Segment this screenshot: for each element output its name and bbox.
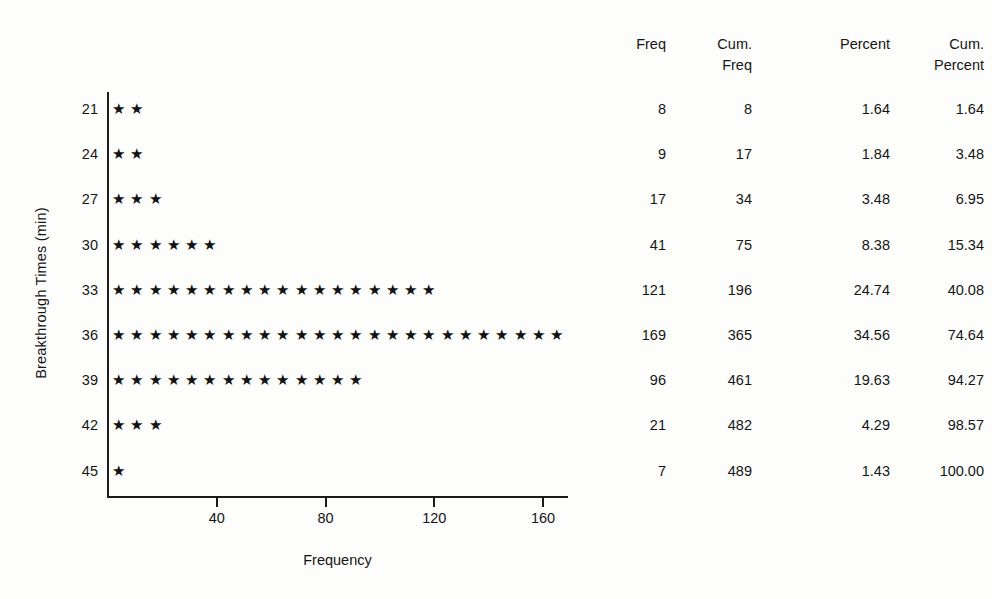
table-cell: 461 (662, 369, 752, 391)
table-cell: 98.57 (888, 414, 984, 436)
star-marker-icon: ★ (404, 324, 422, 346)
x-axis-tick (325, 498, 327, 507)
table-cell: 489 (662, 460, 752, 482)
y-tick-label: 27 (60, 188, 98, 210)
star-marker-icon: ★ (130, 98, 148, 120)
table-cell: 169 (576, 324, 666, 346)
star-marker-icon: ★ (295, 279, 313, 301)
star-marker-icon: ★ (130, 188, 148, 210)
x-axis-line (107, 496, 568, 498)
star-marker-icon: ★ (368, 324, 386, 346)
x-axis-title: Frequency (107, 552, 568, 568)
star-marker-icon: ★ (185, 234, 203, 256)
table-cell: 8 (576, 98, 666, 120)
star-marker-icon: ★ (130, 414, 148, 436)
star-marker-icon: ★ (295, 324, 313, 346)
table-cell: 6.95 (888, 188, 984, 210)
table-cell: 17 (662, 143, 752, 165)
star-marker-icon: ★ (222, 369, 240, 391)
star-plot-frequency-figure: Breakthrough Times (min) 21★★24★★27★★★30… (0, 0, 992, 599)
star-row: 27★★★ (0, 188, 600, 210)
star-marker-icon: ★ (258, 369, 276, 391)
frequency-table: FreqCum. FreqPercentCum. Percent 881.641… (596, 0, 992, 599)
star-row: 36★★★★★★★★★★★★★★★★★★★★★★★★★ (0, 324, 600, 346)
star-marker-icon: ★ (203, 369, 221, 391)
table-cell: 40.08 (888, 279, 984, 301)
table-cell: 74.64 (888, 324, 984, 346)
table-cell: 365 (662, 324, 752, 346)
star-marker-icon: ★ (130, 279, 148, 301)
star-run: ★ (112, 460, 130, 482)
star-marker-icon: ★ (276, 369, 294, 391)
y-tick-label: 21 (60, 98, 98, 120)
star-row: 45★ (0, 460, 600, 482)
star-marker-icon: ★ (149, 279, 167, 301)
table-column-header: Cum. Percent (888, 34, 984, 76)
star-run: ★★ (112, 98, 149, 120)
star-row: 21★★ (0, 98, 600, 120)
x-axis-tick (542, 498, 544, 507)
x-tick-label: 40 (187, 510, 247, 526)
table-cell: 4.29 (794, 414, 890, 436)
star-row: 30★★★★★★ (0, 234, 600, 256)
star-row: 42★★★ (0, 414, 600, 436)
star-marker-icon: ★ (349, 279, 367, 301)
table-cell: 15.34 (888, 234, 984, 256)
x-tick-label: 80 (296, 510, 356, 526)
star-marker-icon: ★ (295, 369, 313, 391)
table-cell: 196 (662, 279, 752, 301)
star-marker-icon: ★ (240, 279, 258, 301)
star-marker-icon: ★ (368, 279, 386, 301)
star-marker-icon: ★ (112, 324, 130, 346)
star-marker-icon: ★ (185, 279, 203, 301)
table-cell: 9 (576, 143, 666, 165)
table-cell: 34.56 (794, 324, 890, 346)
star-run: ★★★★★★★★★★★★★★★★★★★★★★★★★ (112, 324, 568, 346)
star-marker-icon: ★ (313, 324, 331, 346)
star-marker-icon: ★ (477, 324, 495, 346)
table-cell: 3.48 (794, 188, 890, 210)
star-marker-icon: ★ (331, 324, 349, 346)
table-cell: 1.43 (794, 460, 890, 482)
star-marker-icon: ★ (185, 369, 203, 391)
star-marker-icon: ★ (112, 98, 130, 120)
table-cell: 7 (576, 460, 666, 482)
star-marker-icon: ★ (240, 324, 258, 346)
star-marker-icon: ★ (422, 324, 440, 346)
star-marker-icon: ★ (276, 279, 294, 301)
star-marker-icon: ★ (149, 324, 167, 346)
star-run: ★★★ (112, 188, 167, 210)
star-marker-icon: ★ (112, 143, 130, 165)
star-marker-icon: ★ (514, 324, 532, 346)
x-axis-tick (433, 498, 435, 507)
star-run: ★★★★★★★★★★★★★★ (112, 369, 368, 391)
star-marker-icon: ★ (349, 324, 367, 346)
star-marker-icon: ★ (112, 234, 130, 256)
star-marker-icon: ★ (258, 279, 276, 301)
table-cell: 34 (662, 188, 752, 210)
star-marker-icon: ★ (149, 414, 167, 436)
y-tick-label: 45 (60, 460, 98, 482)
star-marker-icon: ★ (130, 234, 148, 256)
y-tick-label: 42 (60, 414, 98, 436)
x-tick-label: 120 (404, 510, 464, 526)
star-run: ★★ (112, 143, 149, 165)
star-marker-icon: ★ (222, 324, 240, 346)
star-marker-icon: ★ (112, 460, 130, 482)
table-cell: 8 (662, 98, 752, 120)
star-marker-icon: ★ (203, 234, 221, 256)
star-marker-icon: ★ (386, 279, 404, 301)
x-tick-label: 160 (513, 510, 573, 526)
y-tick-label: 30 (60, 234, 98, 256)
table-cell: 100.00 (888, 460, 984, 482)
table-column-header: Freq (576, 34, 666, 55)
table-cell: 24.74 (794, 279, 890, 301)
star-marker-icon: ★ (313, 279, 331, 301)
star-marker-icon: ★ (222, 279, 240, 301)
star-marker-icon: ★ (349, 369, 367, 391)
star-marker-icon: ★ (149, 188, 167, 210)
star-marker-icon: ★ (459, 324, 477, 346)
star-marker-icon: ★ (112, 188, 130, 210)
star-marker-icon: ★ (112, 279, 130, 301)
star-marker-icon: ★ (167, 324, 185, 346)
